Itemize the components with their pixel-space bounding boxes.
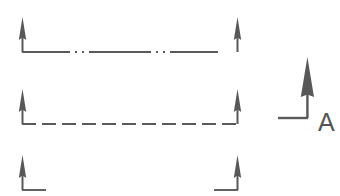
- row-2-right-arrow: [234, 89, 241, 124]
- row-3-right-arrow: [234, 155, 241, 190]
- row-1-cutting-plane-group: [19, 17, 241, 52]
- row-2-right-arrow-head: [234, 89, 241, 112]
- row-2-left-arrow: [19, 89, 26, 124]
- section-arrow-a-head: [301, 57, 314, 97]
- row-1-left-arrow-head: [19, 17, 26, 40]
- section-line-drawing: A: [0, 0, 340, 196]
- row-1-right-arrow: [234, 17, 241, 52]
- row-1-right-arrow-head: [234, 17, 241, 40]
- row-2-left-arrow-head: [19, 89, 26, 112]
- row-3-left-arrow-head: [19, 155, 26, 178]
- section-label-a: A: [318, 108, 335, 136]
- row-3-cutting-plane-group: [19, 155, 241, 190]
- row-3-left-arrow: [19, 155, 26, 190]
- labelled-section-arrow-a-group: [278, 57, 314, 118]
- row-1-left-arrow: [19, 17, 26, 52]
- row-2-cutting-plane-group: [19, 89, 241, 124]
- row-3-right-arrow-head: [234, 155, 241, 178]
- drawing-canvas: A: [0, 0, 340, 196]
